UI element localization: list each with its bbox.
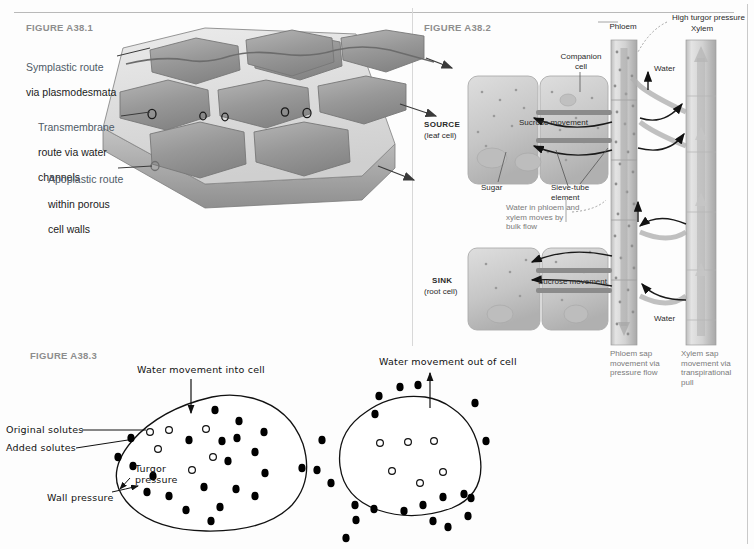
- callout-apoplastic-line1: Apoplastic route: [48, 173, 123, 185]
- label-xylem: Xylem: [684, 24, 720, 34]
- label-wall-pressure: Wall pressure: [47, 492, 114, 503]
- center-divider-rule: [412, 8, 413, 346]
- figure-label-a38-1: FIGURE A38.1: [26, 22, 93, 33]
- cell-row-middle: [120, 76, 406, 130]
- water-arrows-top: [632, 72, 686, 150]
- source-leaf-cells: [468, 76, 612, 184]
- fig3-right-cell: [340, 396, 481, 515]
- callout-apoplastic-route: Apoplastic route within porous cell wall…: [48, 160, 123, 235]
- callout-apoplastic-line3: cell walls: [48, 223, 90, 235]
- callout-symplastic-line2: via plasmodesmata: [26, 86, 116, 98]
- callout-symplastic-line1: Symplastic route: [26, 61, 104, 73]
- label-high-turgor-pressure: High turgor pressure: [672, 13, 745, 23]
- top-divider-rule: [14, 12, 734, 13]
- symplastic-route-path: [126, 47, 434, 64]
- water-flow-arrows: [378, 104, 436, 180]
- label-sucrose-movement-source: Sucrose movement: [519, 118, 588, 128]
- figure-label-a38-2: FIGURE A38.2: [424, 22, 491, 33]
- label-sieve-tube-element: Sieve-tube element: [551, 183, 589, 202]
- xylem-tube: [686, 40, 716, 345]
- callout-apoplastic-line2: within porous: [48, 198, 110, 210]
- label-water-top: Water: [654, 64, 675, 74]
- label-source-title: SOURCE: [424, 120, 460, 130]
- cell-row-bottom: [150, 122, 350, 178]
- sink-root-cells: [468, 248, 612, 330]
- cell-slab-body: [103, 28, 395, 208]
- figure-a38-1-leaders: [117, 48, 152, 168]
- label-xylem-sap-movement: Xylem sap movement via transpirational p…: [681, 349, 731, 387]
- apoplastic-pore-icon: [151, 162, 159, 171]
- fig3-right-outside-solutes: [298, 381, 489, 543]
- callout-transmembrane-line1: Transmembrane: [38, 121, 115, 133]
- label-phloem-sap-movement: Phloem sap movement via pressure flow: [610, 349, 660, 378]
- label-water-movement-out-of-cell: Water movement out of cell: [379, 356, 517, 367]
- label-water-bottom: Water: [654, 314, 675, 324]
- right-margin-rule: [747, 4, 748, 544]
- label-original-solutes: Original solutes: [6, 424, 83, 435]
- callout-symplastic-route: Symplastic route via plasmodesmata: [26, 48, 116, 98]
- label-sucrose-movement-sink: Sucrose movement: [538, 277, 607, 287]
- fig3-right-open-solutes: [377, 438, 447, 487]
- label-sink-subtitle: (root cell): [424, 287, 457, 297]
- label-sink-title: SINK: [432, 276, 452, 286]
- cell-row-top: [150, 30, 430, 84]
- figure-page: FIGURE A38.1: [0, 0, 754, 549]
- label-bulk-flow-note: Water in phloem and xylem moves by bulk …: [506, 203, 580, 232]
- figure-label-a38-3: FIGURE A38.3: [30, 350, 97, 361]
- label-water-movement-into-cell: Water movement into cell: [137, 364, 265, 375]
- label-added-solutes: Added solutes: [6, 442, 76, 453]
- label-sugar: Sugar: [481, 183, 502, 193]
- phloem-tube: [611, 40, 637, 345]
- label-turgor-pressure: Turgor pressure: [135, 463, 178, 485]
- figure-a38-2-pointers: [498, 72, 608, 186]
- callout-transmembrane-line2: route via water: [38, 146, 107, 158]
- water-channel-icons: [148, 108, 311, 121]
- label-companion-cell: Companion cell: [551, 52, 611, 71]
- cell-row-top-b: [246, 30, 424, 76]
- label-phloem: Phloem: [600, 22, 646, 32]
- label-source-subtitle: (leaf cell): [424, 131, 456, 141]
- water-arrows-bottom: [638, 202, 686, 303]
